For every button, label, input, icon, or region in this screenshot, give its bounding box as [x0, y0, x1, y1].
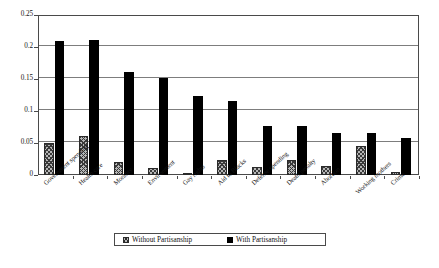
- hatched-square-icon: [123, 237, 129, 243]
- x-axis-tick-mark: [419, 176, 420, 179]
- bar-with-partisanship: [55, 41, 65, 175]
- x-axis-tick-mark: [177, 176, 178, 179]
- x-axis-tick-mark: [384, 176, 385, 179]
- bar-group: [211, 15, 246, 175]
- y-axis-tick-label: 0.15: [21, 75, 33, 82]
- x-axis-tick-mark: [315, 176, 316, 179]
- bar-group: [350, 15, 385, 175]
- bar-with-partisanship: [89, 40, 99, 175]
- bar-group: [38, 15, 73, 175]
- y-axis-tick-label: 0.2: [24, 43, 33, 50]
- bar-with-partisanship: [124, 72, 134, 175]
- x-axis-tick-mark: [107, 176, 108, 179]
- legend-entry: With Partisanship: [227, 236, 287, 244]
- x-axis-tick-mark: [211, 176, 212, 179]
- y-axis: 00.050.10.150.20.25: [0, 0, 38, 185]
- y-axis-tick-label: 0.1: [24, 107, 33, 114]
- bar-with-partisanship: [401, 138, 411, 175]
- y-axis-tick-label: 0.25: [21, 11, 33, 18]
- legend-entry: Without Partisanship: [123, 236, 192, 244]
- bar-group: [107, 15, 142, 175]
- bar-with-partisanship: [367, 133, 377, 175]
- x-axis-tick-mark: [246, 176, 247, 179]
- x-axis-tick-mark: [280, 176, 281, 179]
- bar-group: [315, 15, 350, 175]
- x-axis-tick-mark: [73, 176, 74, 179]
- x-axis-tick-mark: [142, 176, 143, 179]
- chart-legend: Without PartisanshipWith Partisanship: [114, 233, 326, 246]
- filled-square-icon: [227, 237, 233, 243]
- bar-without-partisanship: [356, 146, 366, 175]
- bar-group: [384, 15, 419, 175]
- bar-group: [246, 15, 281, 175]
- bar-group: [177, 15, 212, 175]
- bar-group: [142, 15, 177, 175]
- legend-label: Without Partisanship: [132, 236, 192, 244]
- y-axis-tick-label: 0.05: [21, 139, 33, 146]
- x-axis-tick-mark: [350, 176, 351, 179]
- x-axis: Government spendingHealth careMoralityEn…: [0, 176, 439, 228]
- bars-layer: [38, 15, 419, 175]
- page-bleed-fragment: [0, 259, 439, 268]
- bar-chart: 00.050.10.150.20.25 Government spendingH…: [0, 0, 439, 268]
- legend-label: With Partisanship: [236, 236, 287, 244]
